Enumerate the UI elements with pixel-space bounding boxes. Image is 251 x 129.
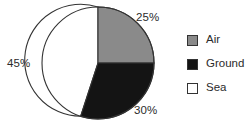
- legend-label-air: Air: [206, 34, 220, 46]
- legend-label-ground: Ground: [206, 58, 244, 70]
- pie-label-ground: 30%: [134, 105, 157, 117]
- legend-swatch-ground-icon: [187, 59, 198, 70]
- legend-swatch-sea-icon: [187, 83, 198, 94]
- pie-label-sea: 45%: [7, 58, 30, 70]
- pie-chart-plot-area: 25% 30% 45%: [0, 0, 180, 129]
- legend-label-sea: Sea: [206, 82, 226, 94]
- legend-item-ground[interactable]: Ground: [187, 52, 251, 76]
- pie-label-air: 25%: [136, 12, 159, 24]
- pie-chart-figure: 25% 30% 45% Air Ground Sea: [0, 0, 251, 129]
- legend-item-sea[interactable]: Sea: [187, 76, 251, 100]
- legend-swatch-air-icon: [187, 35, 198, 46]
- chart-legend: Air Ground Sea: [187, 28, 251, 100]
- legend-item-air[interactable]: Air: [187, 28, 251, 52]
